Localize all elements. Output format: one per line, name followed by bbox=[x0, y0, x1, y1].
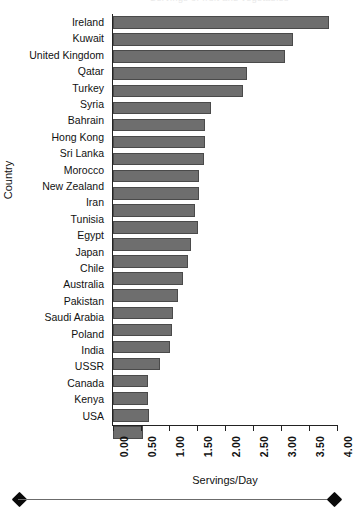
bar-chart-figure: Servings of fruit and vegetables Country… bbox=[0, 0, 354, 510]
bar bbox=[113, 358, 160, 371]
bar-row bbox=[113, 116, 337, 133]
bar bbox=[113, 324, 172, 337]
bar-row bbox=[113, 287, 337, 304]
y-tick-label: USA bbox=[82, 408, 104, 425]
y-tick-label: Qatar bbox=[78, 63, 104, 80]
x-tick-mark bbox=[197, 426, 198, 431]
bar-row bbox=[113, 270, 337, 287]
x-tick-mark bbox=[309, 426, 310, 431]
y-tick-label: Iran bbox=[86, 194, 104, 211]
bar bbox=[113, 136, 205, 149]
x-tick-mark bbox=[281, 426, 282, 431]
bar bbox=[113, 204, 195, 217]
scale-bar-decoration bbox=[14, 494, 340, 506]
x-tick-label: 3.50 bbox=[314, 436, 326, 457]
x-tick-label: 0.00 bbox=[118, 436, 130, 457]
x-tick-mark bbox=[113, 426, 114, 431]
bar-row bbox=[113, 373, 337, 390]
bar bbox=[113, 392, 148, 405]
y-tick-label: Poland bbox=[71, 326, 104, 343]
x-tick-label: 3.00 bbox=[286, 436, 298, 457]
y-tick-label: Turkey bbox=[72, 80, 104, 97]
bar-row bbox=[113, 356, 337, 373]
bar-row bbox=[113, 14, 337, 31]
bar bbox=[113, 170, 199, 183]
bar bbox=[113, 16, 329, 29]
y-tick-label: Syria bbox=[80, 96, 104, 113]
x-tick-label: 1.50 bbox=[202, 436, 214, 457]
bar bbox=[113, 307, 173, 320]
bar-row bbox=[113, 236, 337, 253]
x-tick-mark bbox=[337, 426, 338, 431]
bar-row bbox=[113, 304, 337, 321]
bar-row bbox=[113, 168, 337, 185]
y-tick-label: Kenya bbox=[74, 391, 104, 408]
y-tick-label: Saudi Arabia bbox=[44, 309, 104, 326]
bar bbox=[113, 102, 211, 115]
bar bbox=[113, 289, 178, 302]
y-tick-label: Sri Lanka bbox=[60, 145, 104, 162]
bar-row bbox=[113, 219, 337, 236]
bar bbox=[113, 119, 205, 132]
x-tick-mark bbox=[225, 426, 226, 431]
bar-row bbox=[113, 31, 337, 48]
bar bbox=[113, 153, 204, 166]
bar bbox=[113, 221, 198, 234]
x-tick-label: 4.00 bbox=[342, 436, 354, 457]
bar-row bbox=[113, 253, 337, 270]
y-tick-label: Bahrain bbox=[68, 112, 104, 129]
x-tick-mark bbox=[253, 426, 254, 431]
y-tick-label: Hong Kong bbox=[51, 129, 104, 146]
bar-row bbox=[113, 65, 337, 82]
y-tick-label: Australia bbox=[63, 276, 104, 293]
bar-row bbox=[113, 202, 337, 219]
x-tick-label: 1.00 bbox=[174, 436, 186, 457]
bar-row bbox=[113, 151, 337, 168]
bar-row bbox=[113, 134, 337, 151]
bar-row bbox=[113, 390, 337, 407]
bar-row bbox=[113, 338, 337, 355]
bar bbox=[113, 409, 149, 422]
y-tick-label: USSR bbox=[75, 358, 104, 375]
x-tick-label: 2.50 bbox=[258, 436, 270, 457]
scale-bar-line bbox=[18, 499, 336, 500]
bar bbox=[113, 375, 148, 388]
y-axis-tick-labels: IrelandKuwaitUnited KingdomQatarTurkeySy… bbox=[0, 14, 108, 424]
y-tick-label: Ireland bbox=[72, 14, 104, 31]
y-tick-label: Morocco bbox=[64, 162, 104, 179]
bar bbox=[113, 67, 247, 80]
bar bbox=[113, 255, 188, 268]
x-tick-label: 0.50 bbox=[146, 436, 158, 457]
y-tick-label: Chile bbox=[80, 260, 104, 277]
bar-row bbox=[113, 82, 337, 99]
bar bbox=[113, 341, 170, 354]
y-tick-label: Tunisia bbox=[71, 211, 104, 228]
diamond-cap-right-icon bbox=[327, 492, 343, 508]
x-axis-title: Servings/Day bbox=[113, 474, 337, 486]
y-tick-label: New Zealand bbox=[42, 178, 104, 195]
x-tick-mark bbox=[169, 426, 170, 431]
y-tick-label: Kuwait bbox=[72, 30, 104, 47]
y-tick-label: Pakistan bbox=[64, 293, 104, 310]
y-tick-label: Egypt bbox=[77, 227, 104, 244]
y-tick-label: India bbox=[81, 342, 104, 359]
bar-row bbox=[113, 185, 337, 202]
bar bbox=[113, 187, 199, 200]
y-tick-label: United Kingdom bbox=[29, 47, 104, 64]
plot-area bbox=[113, 14, 337, 424]
bar-row bbox=[113, 321, 337, 338]
bar bbox=[113, 272, 183, 285]
x-tick-mark bbox=[141, 426, 142, 431]
x-tick-label: 2.00 bbox=[230, 436, 242, 457]
bar bbox=[113, 238, 191, 251]
cropped-title-remnant: Servings of fruit and vegetables bbox=[150, 0, 350, 5]
y-tick-label: Japan bbox=[75, 244, 104, 261]
bar bbox=[113, 50, 285, 63]
bar-row bbox=[113, 99, 337, 116]
bar-row bbox=[113, 407, 337, 424]
y-tick-label: Canada bbox=[67, 375, 104, 392]
bar bbox=[113, 33, 293, 46]
bar bbox=[113, 85, 243, 98]
bar-row bbox=[113, 48, 337, 65]
